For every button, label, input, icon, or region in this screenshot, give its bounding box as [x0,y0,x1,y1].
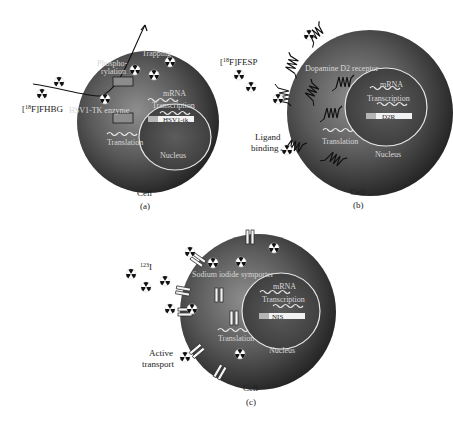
radiation-trefoil-icon [273,94,283,104]
radiation-trefoil-icon [54,77,64,87]
radiation-trefoil-icon [165,57,175,67]
radiation-trefoil-icon [234,70,244,80]
radiation-trefoil-icon [185,247,195,257]
radiation-trefoil-icon [187,304,197,314]
label-active: Active [149,348,173,358]
label-receptor: Dopamine D2 receptor [305,64,379,73]
radiation-trefoil-icon [282,145,292,155]
cell-label-a: Cell [137,188,152,198]
phosphorylation-box [113,77,133,86]
radiation-trefoil-icon [246,82,256,92]
radiation-trefoil-icon [180,352,190,362]
radiation-trefoil-icon [165,304,175,314]
radiation-trefoil-icon [160,276,170,286]
probe-label-iodide: 123I [140,262,152,272]
label-nucleus: Nucleus [375,150,401,159]
radiation-trefoil-icon [100,94,110,104]
reporter-gene-imaging-diagram: Phospho- rylation Trapping HSV1-TK enzym… [0,0,453,428]
probe-label-fesp: [18F]FESP [220,57,258,67]
label-mrna: mRNA [380,80,403,89]
radiation-trefoil-icon [208,258,218,268]
radiation-trefoil-icon [235,349,245,359]
label-transcription: Transcription [152,101,195,110]
radiation-trefoil-icon [269,243,279,253]
label-nucleus: Nucleus [160,151,186,160]
label-ligand: Ligand [255,132,281,142]
panel-c: Sodium iodide symporter Translation mRNA… [126,230,336,407]
radiation-trefoil-icon [37,89,47,99]
gene-bar-promoter [366,113,376,119]
label-transcription: Transcription [262,295,305,304]
caption-a: (a) [140,201,150,211]
radiation-trefoil-icon [126,269,136,279]
label-symporter: Sodium iodide symporter [192,270,274,279]
radiation-trefoil-icon [141,282,151,292]
caption-c: (c) [246,397,256,407]
label-mrna: mRNA [163,89,186,98]
gene-bar-promoter [148,116,158,122]
label-mrna: mRNA [273,282,296,291]
panel-b: Dopamine D2 receptor Translation mRNA Tr… [220,21,453,210]
radiation-trefoil-icon [149,70,159,80]
label-gene-nis: NIS [272,313,283,321]
gene-bar-promoter [259,313,269,319]
label-translation: Translation [322,137,358,146]
radiation-trefoil-icon [130,65,140,75]
panel-a: Phospho- rylation Trapping HSV1-TK enzym… [22,25,219,211]
probe-label-fhbg: [18F]FHBG [22,104,64,114]
label-gene-hsv1tk: HSV1-tk [163,116,189,124]
label-gene-d2r: D2R [382,113,396,121]
caption-b: (b) [353,200,364,210]
cell-label-c: Cell [243,383,258,393]
radiation-trefoil-icon [304,30,314,40]
label-enzyme: HSV1-TK enzyme [69,106,130,115]
label-phosphorylation: rylation [101,67,126,76]
cell-label-b: Cell [350,187,365,197]
label-nucleus: Nucleus [269,346,295,355]
label-transport: transport [142,359,174,369]
label-binding: binding [251,143,279,153]
label-transcription: Transcription [367,94,410,103]
label-translation: Translation [218,334,254,343]
label-trapping: Trapping [142,49,171,58]
label-translation: Translation [107,138,143,147]
radiation-trefoil-icon [236,257,246,267]
nucleus-a [139,104,211,170]
